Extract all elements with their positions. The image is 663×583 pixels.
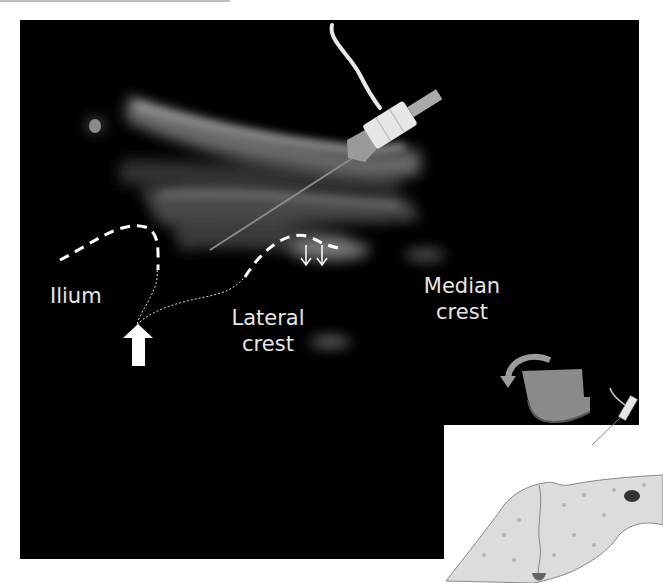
label-median-line1: Median bbox=[417, 273, 507, 299]
label-lateral-crest: Lateral crest bbox=[228, 305, 308, 357]
thick-up-arrow bbox=[123, 324, 153, 366]
bone-cross-section-icon bbox=[444, 425, 663, 583]
label-median-crest: Median crest bbox=[417, 273, 507, 325]
label-ilium: Ilium bbox=[50, 283, 102, 309]
schematic-inset bbox=[444, 425, 663, 583]
marker-dot bbox=[89, 119, 101, 133]
label-lateral-line2: crest bbox=[228, 331, 308, 357]
top-divider-line bbox=[0, 0, 230, 2]
label-median-line2: crest bbox=[417, 299, 507, 325]
label-lateral-line1: Lateral bbox=[228, 305, 308, 331]
